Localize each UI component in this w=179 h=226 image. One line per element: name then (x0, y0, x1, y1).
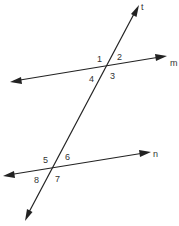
arrowhead-m-right (155, 54, 167, 61)
line-n (8, 153, 144, 175)
arrowhead-n-right (139, 150, 151, 157)
arrowhead-t-bottom (25, 209, 33, 221)
angle-5: 5 (43, 155, 48, 165)
transversal-diagram: t m n 1 2 3 4 5 6 7 8 (0, 0, 179, 226)
angle-4: 4 (89, 74, 94, 84)
angle-7: 7 (55, 174, 60, 184)
angle-1: 1 (97, 54, 102, 64)
label-n: n (153, 149, 158, 159)
arrowhead-n-left (3, 171, 15, 178)
label-m: m (170, 58, 178, 68)
line-t (28, 12, 135, 214)
arrowhead-t-top (131, 5, 139, 17)
angle-8: 8 (34, 175, 39, 185)
line-m (14, 57, 160, 81)
arrowhead-m-left (10, 77, 22, 84)
angle-6: 6 (65, 152, 70, 162)
angle-3: 3 (110, 71, 115, 81)
angle-2: 2 (117, 52, 122, 62)
label-t: t (141, 2, 144, 12)
